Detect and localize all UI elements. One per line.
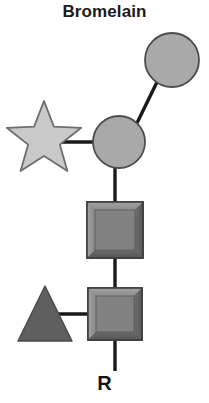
- glycan-structure-svg: [0, 0, 209, 403]
- glcnac-square-lower: [88, 288, 142, 340]
- glcnac-square-upper: [87, 202, 143, 258]
- mannose-circle-upper: [145, 33, 199, 87]
- bond-mannose-upper: [137, 80, 158, 123]
- xylose-star: [7, 101, 82, 171]
- mannose-circle-core: [93, 116, 145, 168]
- terminal-r-label: R: [0, 372, 209, 395]
- glycan-diagram-canvas: Bromelain: [0, 0, 209, 403]
